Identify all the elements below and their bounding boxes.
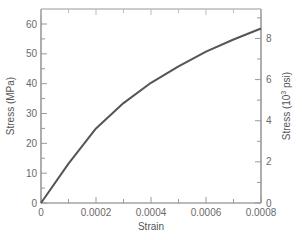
plot-frame — [41, 9, 261, 203]
axis-ticks — [41, 9, 261, 203]
x-tick-label: 0.0004 — [136, 207, 167, 218]
y-left-tick-label: 50 — [26, 48, 38, 59]
x-tick-label: 0.0006 — [191, 207, 222, 218]
x-tick-label: 0.0002 — [81, 207, 112, 218]
x-axis-label: Strain — [138, 221, 164, 232]
y-left-tick-label: 0 — [31, 198, 37, 209]
y-right-tick-label: 8 — [266, 33, 272, 44]
y-left-tick-label: 10 — [26, 168, 38, 179]
stress-strain-chart: 00.00020.00040.00060.0008010203040506002… — [0, 0, 302, 240]
y-axis-right-label: Stress (103 psi) — [280, 72, 292, 140]
y-right-tick-label: 2 — [266, 156, 272, 167]
y-left-tick-label: 30 — [26, 108, 38, 119]
tick-labels: 00.00020.00040.00060.0008010203040506002… — [26, 19, 277, 219]
y-left-tick-label: 20 — [26, 138, 38, 149]
x-tick-label: 0 — [38, 207, 44, 218]
y-left-tick-label: 40 — [26, 78, 38, 89]
x-tick-label: 0.0008 — [246, 207, 277, 218]
y-right-tick-label: 0 — [266, 198, 272, 209]
y-axis-left-label: Stress (MPa) — [5, 77, 16, 135]
y-right-tick-label: 4 — [266, 115, 272, 126]
y-right-tick-label: 6 — [266, 74, 272, 85]
y-left-tick-label: 60 — [26, 19, 38, 30]
stress-strain-curve — [41, 29, 261, 204]
